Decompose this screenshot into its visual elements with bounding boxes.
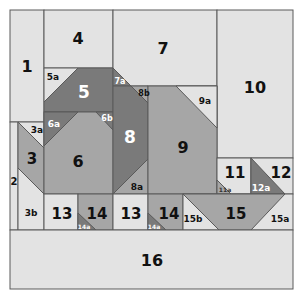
label-5: 5 (78, 82, 90, 102)
label-8b: 8b (138, 89, 150, 98)
label-6b: 6b (101, 114, 113, 123)
label-15a: 15a (271, 214, 290, 224)
label-11a: 11a (219, 186, 231, 193)
label-7: 7 (157, 39, 168, 58)
label-12a: 12a (252, 183, 271, 193)
label-10: 10 (244, 78, 266, 97)
label-8a: 8a (131, 182, 143, 192)
label-16: 16 (141, 251, 163, 270)
label-15b: 15b (184, 214, 204, 224)
label-1: 1 (21, 57, 32, 76)
label-12: 12 (271, 164, 292, 182)
label-9: 9 (177, 138, 188, 157)
label-14a-left: 14a (78, 223, 90, 230)
label-3a: 3a (31, 125, 43, 135)
label-6a: 6a (48, 119, 60, 129)
label-6: 6 (72, 152, 83, 171)
label-7a: 7a (115, 77, 126, 86)
label-13-left: 13 (52, 205, 73, 223)
label-14-right: 14 (159, 205, 180, 223)
label-14a-right: 14a (148, 223, 160, 230)
quilt-diagram: 1 2 3 3a 3b 4 5 5a 6 6a 6b 7 7a 8 8a 8b … (0, 0, 303, 297)
label-15: 15 (226, 205, 247, 223)
label-3b: 3b (25, 208, 38, 218)
label-4: 4 (72, 29, 83, 48)
label-11: 11 (225, 164, 246, 182)
label-5a: 5a (47, 72, 59, 82)
label-9a: 9a (199, 96, 211, 106)
label-14-left: 14 (87, 205, 108, 223)
label-13-right: 13 (121, 205, 142, 223)
label-3: 3 (27, 150, 37, 168)
label-8: 8 (124, 127, 136, 147)
label-2: 2 (11, 176, 18, 187)
